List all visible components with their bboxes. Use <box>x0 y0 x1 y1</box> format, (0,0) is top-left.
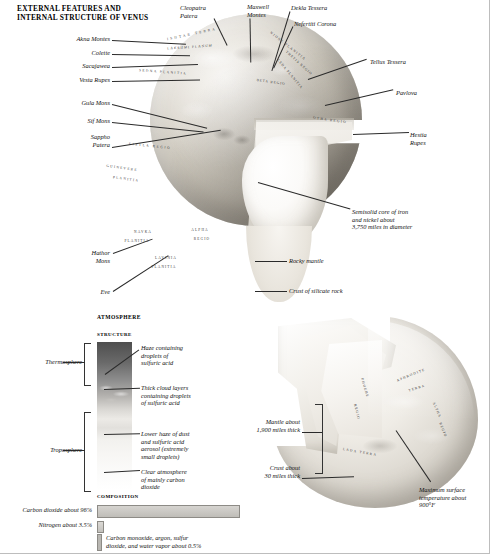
leader-troposphere <box>63 450 85 451</box>
label-gula-mons: Gula Mons <box>30 99 110 107</box>
label-crust-silicate: Crust of silicate rock <box>289 287 393 295</box>
label-akna-montes: Akna Montes <box>34 35 110 43</box>
leader-mantle-thickness <box>302 432 322 433</box>
label-hathor-mons: Hathor Mons <box>50 249 110 264</box>
label-nefertiti-corona: Nefertiti Corona <box>294 20 366 28</box>
label-hestia-rupes: Hestia Rupes <box>410 131 464 146</box>
label-cleopatra-patera: Cleopatra Patera <box>180 4 238 19</box>
cloud-layer-texture <box>97 380 132 406</box>
label-sappho-patera: Sappho Patera <box>34 133 110 148</box>
label-rocky-mantle: Rocky mantle <box>289 257 367 265</box>
nitrogen-bar <box>97 521 104 533</box>
leader-thermosphere <box>63 362 85 363</box>
label-tellus-tessera: Tellus Tessera <box>370 58 454 66</box>
diagram-page: EXTERNAL FEATURES AND INTERNAL STRUCTURE… <box>0 0 490 554</box>
leader-crust-silicate <box>255 291 287 292</box>
label-crust-thickness: Crust about 30 miles thick <box>228 464 300 479</box>
thermosphere-brace <box>84 343 91 386</box>
map-region-name: GUINEVERE <box>106 164 138 172</box>
label-pavlova: Pavlova <box>396 89 456 97</box>
label-vesta-rupes: Vesta Rupes <box>24 76 110 84</box>
map-region-name: NAVKA <box>134 230 152 234</box>
label-cloud-layers: Thick cloud layers containing droplets o… <box>141 384 215 407</box>
label-haze: Haze containing droplets of sulfuric aci… <box>141 344 211 367</box>
atmosphere-layer-strip <box>97 342 132 490</box>
label-maxwell-montes: Maxwell Montes <box>247 3 293 18</box>
troposphere-brace <box>84 412 91 492</box>
map-region-name: ALPHA <box>191 228 209 232</box>
label-mantle-thickness: Mantle about 1,900 miles thick <box>228 418 300 433</box>
label-dekla-tessera: Dekla Tessera <box>291 4 357 12</box>
label-max-temperature: Maximum surface temperature about 900°F <box>419 486 489 509</box>
label-co2: Carbon dioxide about 96% <box>2 506 92 514</box>
label-sif-mons: Sif Mons <box>38 117 110 125</box>
label-eve: Eve <box>72 288 110 296</box>
layer-thickness-brace <box>315 404 323 474</box>
label-lower-haze: Lower haze of dust and sulfuric acid aer… <box>141 430 215 460</box>
label-trace-gases: Carbon monoxide, argon, sulfur dioxide, … <box>106 534 256 549</box>
map-region-name: PLANITIA <box>152 265 177 269</box>
label-nitrogen: Nitrogen about 3.5% <box>14 521 92 529</box>
structure-caption: STRUCTURE <box>97 332 132 337</box>
venus-cutaway-illustration <box>272 316 478 508</box>
atmosphere-heading: ATMOSPHERE <box>97 314 141 320</box>
map-region-name: PLANITIA <box>113 175 140 183</box>
label-clear-atmosphere: Clear atmosphere of mainly carbon dioxid… <box>141 468 213 491</box>
map-region-name: REGIO <box>194 237 211 241</box>
label-core: Semisolid core of iron and nickel about … <box>352 208 460 231</box>
trace-gas-bar <box>97 534 102 551</box>
co2-bar <box>97 505 240 518</box>
leader-rocky-mantle <box>255 261 287 262</box>
composition-caption: COMPOSITION <box>97 494 139 499</box>
label-sacajawea: Sacajawea <box>28 62 110 70</box>
label-colette: Colette <box>42 49 110 57</box>
